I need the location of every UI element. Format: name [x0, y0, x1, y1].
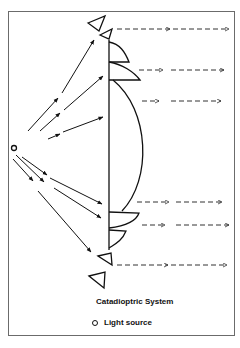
light-source-icon [12, 146, 17, 151]
prism-bottom-inner [98, 253, 112, 265]
legend: Light source [92, 318, 152, 327]
central-lens [109, 40, 143, 250]
incoming-rays [13, 40, 103, 252]
legend-label: Light source [104, 318, 152, 327]
catadioptric-diagram [0, 0, 240, 348]
light-source-legend-icon [92, 320, 98, 326]
outgoing-rays [117, 29, 229, 265]
prism-top-inner [100, 29, 112, 39]
prism-bottom-outer [89, 272, 105, 288]
figure-title: Catadioptric System [96, 297, 173, 306]
prism-top-outer [88, 16, 105, 31]
